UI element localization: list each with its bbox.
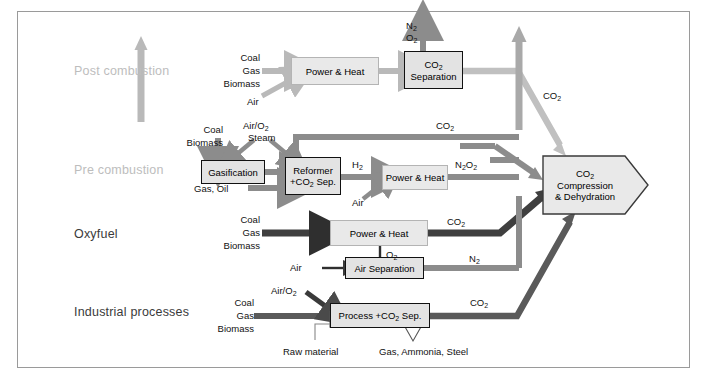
diagram-canvas: Post combustion Pre combustion Oxyfuel I… [0, 0, 715, 384]
box-compression-line1: CO2 [576, 168, 594, 180]
box-compression-line2: Compression [557, 180, 613, 191]
box-compression-line3: & Dehydration [555, 191, 615, 202]
box-co2-compression-dehydration[interactable]: CO2 Compression & Dehydration [543, 158, 627, 212]
